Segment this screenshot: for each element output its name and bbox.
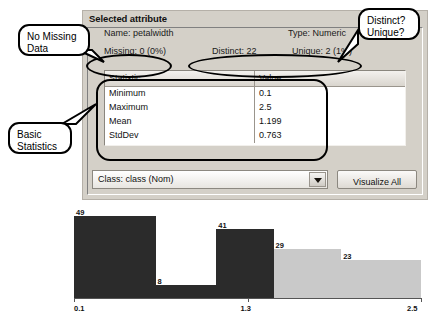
callout-distinct-unique: Distinct? Unique?	[358, 8, 420, 40]
callout-basic-statistics: Basic Statistics	[8, 122, 72, 154]
callout-line-1: Distinct?	[367, 15, 405, 26]
callout-text: Basic Statistics	[17, 129, 66, 153]
callout-line-1: No Missing	[27, 31, 76, 42]
callout-text: Distinct? Unique?	[367, 15, 414, 39]
callout-line-1: Basic	[17, 129, 41, 140]
callout-line-2: Unique?	[367, 27, 404, 38]
callout-no-missing-data: No Missing Data	[18, 24, 90, 56]
callout-line-2: Data	[27, 43, 48, 54]
callout-line-2: Statistics	[17, 141, 57, 152]
callout-text: No Missing Data	[27, 31, 84, 55]
